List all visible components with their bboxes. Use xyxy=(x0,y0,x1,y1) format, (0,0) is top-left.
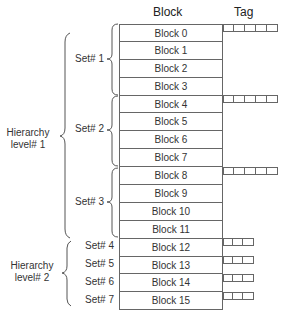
hierarchy-level-2-brace-icon xyxy=(62,241,71,306)
set-2-brace-icon xyxy=(107,96,118,166)
set-1-brace-icon xyxy=(107,24,118,95)
hierarchy-level-1-brace-icon xyxy=(60,33,70,238)
braces xyxy=(0,0,287,319)
set-3-brace-icon xyxy=(107,168,118,237)
